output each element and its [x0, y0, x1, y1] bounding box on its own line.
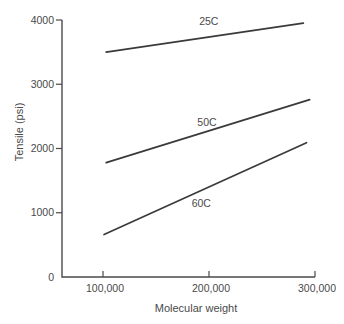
- line-chart: 01000200030004000100,000200,000300,00025…: [0, 0, 344, 324]
- y-axis-title: Tensile (psi): [13, 103, 25, 162]
- series-line-25C: [106, 23, 303, 52]
- y-tick-label: 3000: [31, 78, 55, 90]
- series-line-50C: [106, 100, 310, 163]
- chart-figure: 01000200030004000100,000200,000300,00025…: [0, 0, 344, 324]
- series-label-60C: 60C: [192, 197, 212, 209]
- x-tick-label: 100,000: [86, 282, 124, 294]
- y-tick-label: 4000: [31, 14, 55, 26]
- series-label-25C: 25C: [199, 15, 219, 27]
- axes-line: [62, 20, 315, 277]
- series-label-50C: 50C: [197, 116, 217, 128]
- x-axis-title: Molecular weight: [155, 302, 238, 314]
- x-tick-label: 200,000: [192, 282, 230, 294]
- x-tick-label: 300,000: [298, 282, 336, 294]
- y-tick-label: 0: [48, 271, 54, 283]
- series-line-60C: [104, 143, 306, 235]
- y-tick-label: 1000: [31, 206, 55, 218]
- y-tick-label: 2000: [31, 142, 55, 154]
